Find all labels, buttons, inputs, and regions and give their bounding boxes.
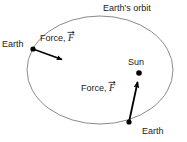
force-left-vector-symbol: F bbox=[68, 33, 75, 43]
force-bottom-vector-symbol: F bbox=[109, 83, 116, 93]
force-left-label-text: Force, bbox=[40, 33, 68, 43]
earth-left-body-dot bbox=[30, 46, 35, 51]
force-bottom-label-text: Force, bbox=[81, 83, 109, 93]
force-left-symbol-glyph: F bbox=[68, 32, 74, 43]
force-bottom-label: Force, F bbox=[81, 83, 116, 93]
earth-left-label: Earth bbox=[2, 39, 24, 49]
orbit-force-diagram: Earth's orbit Earth Sun Earth Force, F F… bbox=[0, 0, 187, 142]
earth-bottom-body-dot bbox=[126, 119, 131, 124]
earth-bottom-label: Earth bbox=[142, 126, 164, 136]
force-vector-left-arrow bbox=[33, 49, 62, 60]
force-vector-bottom-arrow bbox=[129, 82, 138, 122]
earth-orbit-label: Earth's orbit bbox=[103, 3, 151, 13]
sun-body-dot bbox=[136, 70, 142, 76]
sun-label: Sun bbox=[128, 57, 144, 67]
diagram-canvas bbox=[0, 0, 187, 142]
force-left-label: Force, F bbox=[40, 33, 75, 43]
force-bottom-symbol-glyph: F bbox=[109, 82, 115, 93]
